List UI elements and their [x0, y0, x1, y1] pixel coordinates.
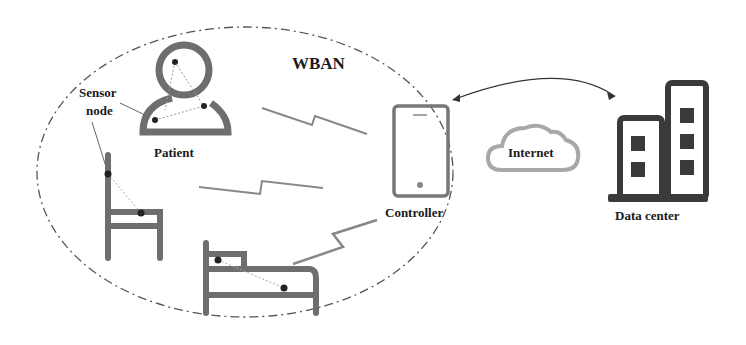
node-label: node	[86, 104, 113, 117]
wban-diagram	[0, 0, 746, 345]
sensor-dot-icon	[201, 103, 207, 109]
bed-sensor-link	[218, 260, 284, 288]
bed-icon	[206, 243, 316, 313]
controller-label: Controller	[385, 206, 443, 219]
sensor-dot-icon	[172, 59, 178, 65]
patient-label: Patient	[154, 146, 194, 159]
sensor-dot-icon	[138, 210, 145, 217]
building-icon	[608, 83, 708, 202]
wireless-link-icon	[262, 108, 367, 134]
sensor-label: Sensor	[79, 86, 117, 99]
smartphone-controller-icon	[394, 106, 448, 196]
internet-label: Internet	[508, 146, 554, 159]
sensor-pointer-line	[92, 122, 107, 170]
sensor-dot-icon	[281, 285, 288, 292]
wireless-link-icon	[199, 181, 323, 194]
chair-sensor-link	[108, 174, 141, 213]
bidirectional-arrow-icon	[452, 78, 616, 102]
sensor-dot-icon	[152, 117, 158, 123]
data-center-label: Data center	[615, 209, 680, 222]
chair-icon	[108, 155, 160, 258]
wireless-link-icon	[293, 220, 377, 264]
sensor-dot-icon	[215, 257, 222, 264]
wban-title: WBAN	[292, 55, 345, 72]
wban-boundary	[37, 27, 453, 317]
sensor-pointer-line	[120, 103, 145, 115]
sensor-dot-icon	[105, 171, 112, 178]
